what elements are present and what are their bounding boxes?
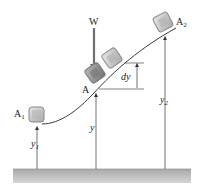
- point-a2-label: A2: [176, 16, 187, 29]
- dy-label: dy: [121, 71, 131, 82]
- point-a1-label: A1: [14, 108, 25, 121]
- block-a2: [152, 11, 174, 33]
- y1-label: y1: [30, 138, 39, 151]
- work-diagram: W A A1 A2 dy y y1 y2: [0, 0, 203, 189]
- y2-label: y2: [159, 94, 168, 107]
- curve-path: [42, 28, 176, 124]
- ground: [13, 169, 191, 183]
- block-middle: [101, 47, 123, 69]
- point-a-label: A: [82, 84, 90, 95]
- block-a: [84, 62, 106, 84]
- weight-label: W: [89, 16, 99, 27]
- y-label: y: [89, 122, 95, 133]
